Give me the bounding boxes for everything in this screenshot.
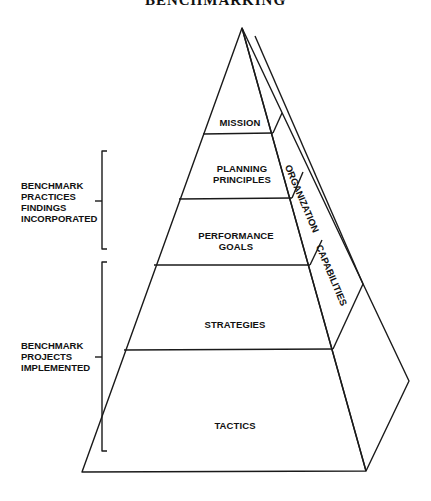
level-planning-line2: PRINCIPLES [190,174,294,185]
bracket-1-line-2: PRACTICES [21,191,97,202]
bracket-label-projects: BENCHMARK PROJECTS IMPLEMENTED [21,340,90,373]
level-performance-line1: PERFORMANCE [176,230,296,241]
bracket-2-line-2: PROJECTS [21,351,90,362]
bracket-2-line-1: BENCHMARK [21,340,90,351]
bracket-1-line-3: FINDINGS [21,202,97,213]
divider-strategies [124,349,333,350]
divider-planning [179,198,292,199]
divider-mission [203,133,273,134]
bracket-projects [102,262,107,451]
bracket-1-line-4: INCORPORATED [21,213,97,224]
level-strategies: STRATEGIES [180,319,290,330]
level-performance-line2: GOALS [176,241,296,252]
level-mission: MISSION [204,117,276,128]
level-performance-goals: PERFORMANCE GOALS [176,230,296,252]
level-planning-line1: PLANNING [190,163,294,174]
level-tactics: TACTICS [180,420,290,431]
level-planning-principles: PLANNING PRINCIPLES [190,163,294,185]
bracket-2-line-3: IMPLEMENTED [21,362,90,373]
bracket-practices [102,151,107,249]
bracket-1-line-1: BENCHMARK [21,180,97,191]
bracket-label-practices: BENCHMARK PRACTICES FINDINGS INCORPORATE… [21,180,97,224]
